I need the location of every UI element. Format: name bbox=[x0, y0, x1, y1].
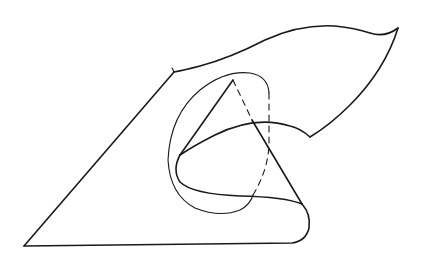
outer-left-edge bbox=[24, 72, 174, 246]
outer-bottom-edge bbox=[24, 204, 309, 246]
diagonal-visible-edge bbox=[252, 120, 302, 204]
upper-flap-top-edge bbox=[174, 26, 398, 72]
kink-tick bbox=[172, 68, 174, 72]
upper-flap-right-edge bbox=[310, 28, 398, 137]
folded-surface-drawing bbox=[0, 0, 426, 274]
tongue-upper-line bbox=[180, 80, 233, 155]
diagram-canvas bbox=[0, 0, 426, 274]
tongue-lower-curve bbox=[176, 155, 302, 204]
diagonal-hidden-edge bbox=[233, 80, 252, 120]
oval-cross-section-visible bbox=[168, 73, 269, 214]
